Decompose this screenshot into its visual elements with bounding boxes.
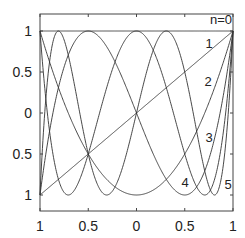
y-tick-label: 0.5 bbox=[13, 64, 33, 80]
x-tick-label: 0 bbox=[133, 218, 141, 234]
x-tick-label: 0.5 bbox=[79, 218, 99, 234]
series-label-n2: 2 bbox=[204, 74, 211, 89]
series-label-n4: 4 bbox=[181, 175, 188, 190]
chebyshev-chart: 10.500.51 10.500.51 n=012345 bbox=[0, 0, 245, 238]
x-tick-labels: 10.500.51 bbox=[36, 218, 237, 234]
x-tick-label: 1 bbox=[229, 218, 237, 234]
series-label-n0: n=0 bbox=[210, 12, 232, 27]
series-label-n5: 5 bbox=[224, 177, 231, 192]
plot-area: 10.500.51 10.500.51 n=012345 bbox=[0, 0, 245, 238]
y-tick-label: 0 bbox=[24, 105, 32, 121]
x-tick-label: 1 bbox=[36, 218, 44, 234]
series-label-n1: 1 bbox=[205, 36, 212, 51]
curves bbox=[40, 31, 233, 195]
y-tick-label: 0.5 bbox=[13, 146, 33, 162]
y-tick-labels: 10.500.51 bbox=[13, 23, 33, 203]
series-label-n3: 3 bbox=[205, 130, 212, 145]
x-tick-label: 0.5 bbox=[175, 218, 195, 234]
y-tick-label: 1 bbox=[24, 23, 32, 39]
y-tick-label: 1 bbox=[24, 187, 32, 203]
